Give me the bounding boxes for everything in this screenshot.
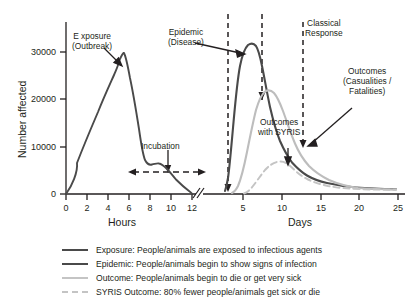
syris-outcome-curve [244, 162, 396, 194]
x-tick-label-h0: 0 [63, 203, 68, 213]
x-tick-label-d15: 15 [316, 203, 326, 213]
legend-item-outcome: Outcome: People/animals begin to die or … [62, 271, 412, 285]
outcomes-annotation-line2: (Casualities / [343, 76, 391, 86]
epidemic-annotation-line2: (Disease) [168, 37, 204, 47]
x-tick-label-d20: 20 [354, 203, 364, 213]
classical-response-line2: Response [305, 28, 343, 38]
chart-legend: Exposure: People/animals are exposed to … [62, 243, 412, 299]
classical-response-line1: Classical [305, 18, 343, 28]
x-tick-label-h4: 4 [105, 203, 110, 213]
exposure-annotation-line1: E xposure [72, 31, 112, 41]
legend-label-syris-outcome: SYRIS Outcome: 80% fewer people/animals … [96, 287, 320, 297]
exposure-curve [66, 53, 192, 194]
x-axis-title-hours: Hours [108, 216, 136, 228]
legend-swatch-outcome [62, 277, 88, 279]
outcomes-annotation-line3: Fatalities) [343, 86, 391, 96]
outcomes-annotation: Outcomes (Casualities / Fatalities) [343, 66, 391, 96]
vertical-dashed-lines [228, 14, 303, 192]
x-axis-title-days: Days [288, 216, 312, 228]
legend-item-epidemic: Epidemic: People/animals begin to show s… [62, 257, 412, 271]
x-tick-label-h12: 12 [187, 203, 197, 213]
legend-label-exposure: Exposure: People/animals are exposed to … [96, 245, 322, 255]
incubation-annotation: Incubation [141, 141, 180, 151]
outcomes-syris-annotation: Outcomes with SYRIS [258, 117, 300, 137]
x-tick-label-h2: 2 [84, 203, 89, 213]
x-tick-label-h6: 6 [126, 203, 131, 213]
y-tick-marks [60, 52, 66, 194]
legend-swatch-exposure [62, 249, 88, 251]
syris-annotation-line1: Outcomes [258, 117, 300, 127]
exposure-annotation: E xposure (Outbreak) [72, 31, 112, 51]
y-tick-label-20000: 20000 [31, 94, 56, 104]
x-tick-label-d5: 5 [240, 203, 245, 213]
legend-label-epidemic: Epidemic: People/animals begin to show s… [96, 259, 317, 269]
x-tick-marks-hours [66, 194, 192, 200]
legend-item-exposure: Exposure: People/animals are exposed to … [62, 243, 412, 257]
y-tick-label-30000: 30000 [31, 47, 56, 57]
x-tick-marks-days [243, 194, 398, 200]
x-tick-label-d10: 10 [277, 203, 287, 213]
legend-swatch-epidemic [62, 263, 88, 265]
y-tick-label-0: 0 [51, 189, 56, 199]
x-tick-label-d25: 25 [393, 203, 403, 213]
x-tick-label-h8: 8 [147, 203, 152, 213]
epidemic-annotation: Epidemic (Disease) [168, 27, 204, 47]
exposure-annotation-line2: (Outbreak) [72, 41, 112, 51]
outcomes-annotation-line1: Outcomes [343, 66, 391, 76]
classical-response-annotation: Classical Response [305, 18, 343, 38]
legend-swatch-syris-outcome [62, 291, 88, 293]
legend-label-outcome: Outcome: People/animals begin to die or … [96, 273, 301, 283]
y-axis-title: Number affected [16, 81, 28, 158]
x-tick-label-h10: 10 [166, 203, 176, 213]
axis-break-icon [193, 188, 204, 198]
syris-annotation-line2: with SYRIS [258, 127, 300, 137]
epidemic-annotation-line1: Epidemic [168, 27, 204, 37]
epidemic-timeline-chart: 0 10000 20000 30000 0 2 4 6 8 10 12 5 10… [0, 0, 419, 305]
y-tick-label-10000: 10000 [31, 142, 56, 152]
legend-item-syris-outcome: SYRIS Outcome: 80% fewer people/animals … [62, 285, 412, 299]
